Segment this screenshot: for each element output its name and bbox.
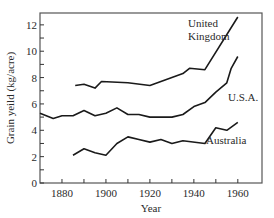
y-tick-label: 0 bbox=[32, 177, 38, 189]
x-axis-title: Year bbox=[141, 202, 162, 214]
x-axis: 18801900192019401960 bbox=[51, 179, 249, 199]
y-tick-label: 12 bbox=[26, 19, 37, 31]
series-label: United bbox=[188, 17, 218, 29]
series-labels: UnitedKingdomU.S.A.Australia bbox=[188, 17, 259, 146]
series-label: U.S.A. bbox=[228, 91, 259, 103]
x-tick-label: 1940 bbox=[183, 187, 206, 199]
y-tick-label: 6 bbox=[32, 98, 38, 110]
x-tick-label: 1960 bbox=[227, 187, 250, 199]
y-axis: 024681012 bbox=[26, 19, 44, 189]
x-tick-label: 1880 bbox=[51, 187, 74, 199]
x-tick-label: 1900 bbox=[95, 187, 118, 199]
series-label: Australia bbox=[206, 134, 246, 146]
y-tick-label: 2 bbox=[32, 151, 38, 163]
y-tick-label: 10 bbox=[26, 45, 38, 57]
y-tick-label: 4 bbox=[32, 124, 38, 136]
chart-canvas: 024681012 18801900192019401960 UnitedKin… bbox=[0, 0, 274, 218]
series-label: Kingdom bbox=[188, 30, 230, 42]
y-axis-title: Grain yeild (kg/acre) bbox=[4, 52, 17, 145]
grain-yield-chart: 024681012 18801900192019401960 UnitedKin… bbox=[0, 0, 274, 218]
y-tick-label: 8 bbox=[32, 72, 38, 84]
x-tick-label: 1920 bbox=[139, 187, 162, 199]
